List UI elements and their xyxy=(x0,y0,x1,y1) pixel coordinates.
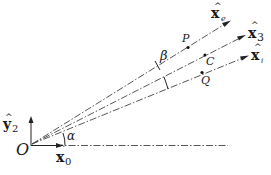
y2-sub: 2 xyxy=(12,123,18,134)
xi-sub: i xyxy=(261,57,263,65)
alpha-label: α xyxy=(67,129,75,143)
point-C-label: C xyxy=(206,55,215,68)
beta-arc xyxy=(164,77,168,89)
xe-sub: e xyxy=(221,14,226,23)
xi-label: x xyxy=(251,47,260,63)
point-Q-label: Q xyxy=(201,74,210,87)
point-P xyxy=(186,46,189,49)
arrowhead-xi xyxy=(240,56,249,61)
x0-label: x xyxy=(56,149,65,165)
point-P-label: P xyxy=(181,32,190,45)
x0-sub: 0 xyxy=(65,156,71,167)
arrowhead-y2 xyxy=(29,116,34,123)
ray-xi xyxy=(32,58,243,144)
ray-x3 xyxy=(32,38,240,144)
beta-label: β xyxy=(159,48,168,63)
y2-label: y xyxy=(2,116,12,132)
origin-label: O xyxy=(16,140,29,159)
arrowhead-x3 xyxy=(237,35,246,41)
ray-xe xyxy=(32,24,225,144)
xe-label: x xyxy=(211,5,220,21)
x3-label: x xyxy=(248,25,257,41)
vector-diagram: O ^ x 0 ^ y 2 α β ^ x e ^ x 3 ^ x i P C … xyxy=(0,0,271,175)
